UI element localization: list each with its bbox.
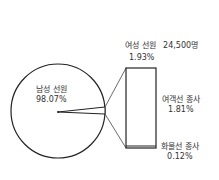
connector-bottom <box>105 114 126 148</box>
passenger-label-name: 여객선 종사 <box>162 95 200 105</box>
connector-top <box>105 68 126 107</box>
female-label-name: 여성 선원 <box>125 41 156 50</box>
breakdown-bar <box>126 68 156 148</box>
pie-center-dot <box>57 111 59 113</box>
female-label-count: 24,500명 <box>163 41 198 50</box>
male-label: 남성 선원 98.07% <box>36 85 67 105</box>
cargo-label-name: 화물선 종사 <box>161 142 199 152</box>
male-label-pct: 98.07% <box>36 95 67 105</box>
cargo-label: 화물선 종사 0.12% <box>161 142 199 162</box>
female-label-pct: 1.93% <box>129 53 154 63</box>
passenger-label-pct: 1.81% <box>162 105 200 115</box>
cargo-label-pct: 0.12% <box>161 152 199 162</box>
female-label: 여성 선원 24,500명 <box>125 41 198 51</box>
male-label-name: 남성 선원 <box>36 85 67 95</box>
passenger-label: 여객선 종사 1.81% <box>162 95 200 115</box>
